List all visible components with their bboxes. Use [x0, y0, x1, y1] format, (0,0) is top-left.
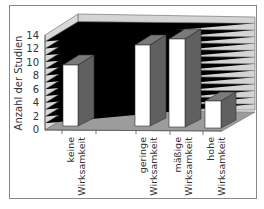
svg-text:Wirksamkeit: Wirksamkeit	[216, 137, 227, 196]
svg-text:4: 4	[33, 97, 39, 108]
bar-keine	[63, 55, 94, 126]
svg-text:Wirksamkeit: Wirksamkeit	[183, 137, 194, 196]
y-ticks: 0 2 4 6 8 10 12 14	[26, 30, 39, 136]
x-labels: keine Wirksamkeit geringe Wirksamkeit mä…	[65, 137, 227, 196]
y-axis-label: Anzahl der Studien	[13, 36, 24, 131]
bar-chart-3d: 0 2 4 6 8 10 12 14 keine Wirksamke	[0, 0, 264, 209]
svg-text:10: 10	[26, 57, 39, 68]
svg-text:12: 12	[26, 43, 39, 54]
svg-text:mäßige: mäßige	[172, 137, 183, 173]
svg-text:hohe: hohe	[205, 137, 216, 161]
svg-text:0: 0	[33, 124, 39, 135]
bar-geringe	[135, 35, 166, 126]
svg-text:Wirksamkeit: Wirksamkeit	[148, 137, 159, 196]
bar-maessige	[169, 29, 201, 127]
svg-text:6: 6	[33, 84, 39, 95]
svg-text:14: 14	[26, 30, 39, 41]
svg-text:keine: keine	[65, 137, 76, 163]
svg-text:2: 2	[33, 111, 39, 122]
svg-text:8: 8	[33, 70, 39, 81]
svg-text:Wirksamkeit: Wirksamkeit	[76, 137, 87, 196]
svg-text:geringe: geringe	[137, 137, 148, 173]
